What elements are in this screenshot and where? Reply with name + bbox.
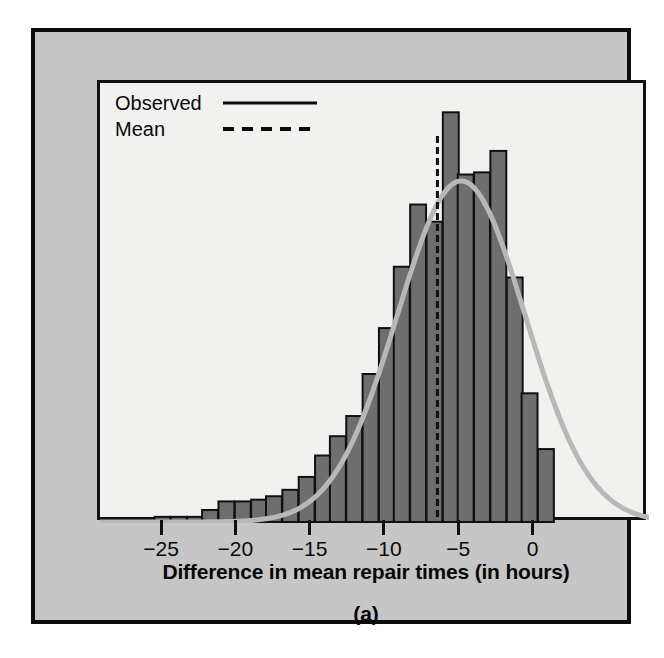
x-axis-title: Difference in mean repair times (in hour… — [66, 560, 664, 584]
histogram-bar — [522, 393, 538, 522]
x-tick-mark — [382, 520, 385, 535]
histogram-bar — [443, 112, 459, 522]
histogram-plot — [100, 83, 649, 523]
x-tick-label: −15 — [292, 537, 328, 561]
x-tick-label: −10 — [366, 537, 402, 561]
x-tick-label: −25 — [143, 537, 179, 561]
histogram-bar — [427, 222, 443, 522]
histogram-bar — [458, 175, 474, 522]
histogram-bar — [282, 490, 298, 522]
legend-entry-observed: Observed — [115, 90, 345, 116]
legend-label-observed: Observed — [115, 90, 221, 116]
histogram-bar — [538, 449, 554, 522]
histogram-bar — [490, 151, 506, 522]
histogram-bar — [474, 172, 490, 522]
x-tick-mark — [308, 520, 311, 535]
plot-frame — [97, 80, 646, 520]
figure-root: Observed Mean −25−20−15−10−50 Difference… — [0, 0, 664, 658]
x-tick-mark — [160, 520, 163, 535]
dashed-line-icon — [221, 119, 319, 139]
legend-entry-mean: Mean — [115, 116, 345, 142]
histogram-bars — [155, 112, 554, 522]
histogram-bar — [218, 501, 234, 522]
x-tick-label: −5 — [446, 537, 470, 561]
x-tick-label: −20 — [217, 537, 253, 561]
figure-panel: Observed Mean −25−20−15−10−50 Difference… — [31, 28, 631, 624]
histogram-bar — [379, 328, 395, 522]
histogram-bar — [507, 277, 523, 522]
legend: Observed Mean — [115, 90, 345, 142]
x-tick-mark — [234, 520, 237, 535]
solid-line-icon — [221, 93, 319, 113]
legend-label-mean: Mean — [115, 116, 221, 142]
x-tick-mark — [531, 520, 534, 535]
x-tick-label: 0 — [527, 537, 539, 561]
panel-caption: (a) — [66, 602, 664, 626]
x-tick-mark — [457, 520, 460, 535]
